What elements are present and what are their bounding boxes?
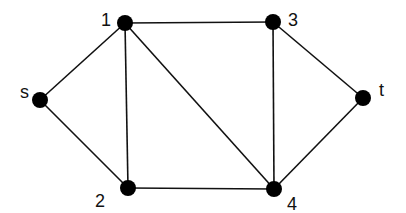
- edge-2-4: [128, 188, 274, 189]
- node-t: [355, 90, 371, 106]
- edges-group: [40, 22, 363, 189]
- edge-1-4: [125, 23, 274, 189]
- node-s: [32, 92, 48, 108]
- node-label-4: 4: [287, 194, 297, 213]
- node-4: [266, 181, 282, 197]
- node-1: [117, 15, 133, 31]
- edge-1-3: [125, 22, 273, 23]
- graph-canvas: s1234t: [0, 0, 406, 213]
- edge-3-t: [273, 22, 363, 98]
- node-label-1: 1: [101, 10, 111, 30]
- node-label-t: t: [379, 80, 384, 100]
- node-2: [120, 180, 136, 196]
- node-label-s: s: [20, 82, 29, 102]
- labels-group: s1234t: [20, 10, 384, 213]
- edge-4-t: [274, 98, 363, 189]
- edge-1-2: [125, 23, 128, 188]
- edge-s-2: [40, 100, 128, 188]
- node-label-3: 3: [288, 10, 298, 30]
- node-label-2: 2: [95, 191, 105, 211]
- edge-s-1: [40, 23, 125, 100]
- graph-diagram: s1234t: [0, 0, 406, 213]
- edge-3-4: [273, 22, 274, 189]
- nodes-group: [32, 14, 371, 197]
- node-3: [265, 14, 281, 30]
